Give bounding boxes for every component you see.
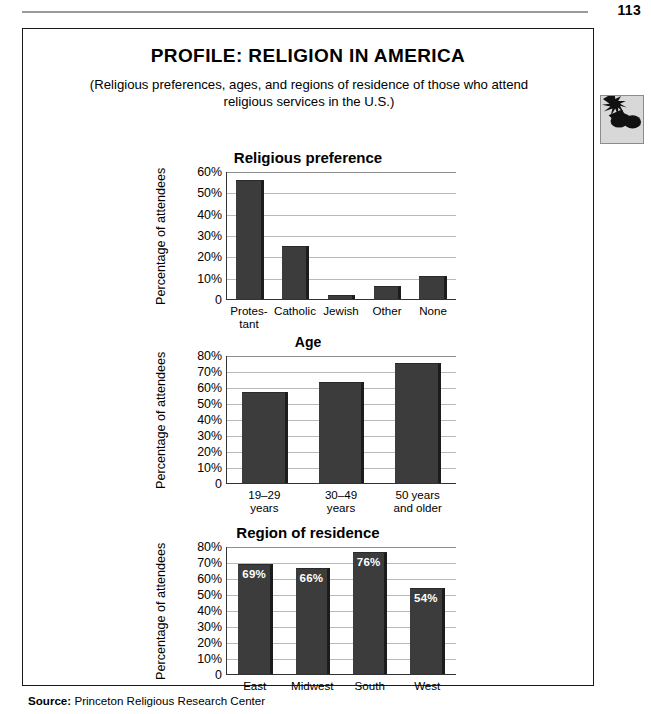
bar: 54% (410, 588, 444, 674)
plot-canvas: 010%20%30%40%50%60% (226, 172, 456, 300)
x-axis-tick-label: East (226, 679, 284, 692)
sunglasses-sun-icon (600, 95, 644, 144)
x-axis-tick-label: Protes- tant (226, 304, 272, 330)
bar-slot: 76% (342, 547, 399, 674)
x-axis-tick-label: Midwest (284, 679, 342, 692)
x-axis-labels: EastMidwestSouthWest (226, 679, 456, 692)
y-axis-tick: 30% (197, 621, 227, 633)
chart-region-of-residence: Region of residencePercentage of attende… (23, 524, 593, 709)
chart-title: Religious preference (23, 149, 593, 166)
page-title: PROFILE: RELIGION IN AMERICA (23, 45, 593, 67)
source-line: Source: Princeton Religious Research Cen… (28, 694, 265, 707)
bar-value-label: 69% (238, 568, 269, 580)
bar-value-label: 66% (296, 572, 327, 584)
bar-value-label: 76% (353, 556, 384, 568)
bar (395, 363, 441, 483)
bar-series (227, 172, 456, 299)
x-axis-tick-label: None (410, 304, 456, 330)
bar-slot (273, 172, 319, 299)
bar-slot: 54% (399, 547, 456, 674)
page-frame: PROFILE: RELIGION IN AMERICA (Religious … (22, 28, 594, 686)
y-axis-label: Percentage of attendees (154, 172, 170, 300)
chart-title: Region of residence (23, 524, 593, 541)
bar-slot: 69% (227, 547, 284, 674)
y-axis-tick: 70% (197, 366, 227, 378)
x-axis-tick-label: Catholic (272, 304, 318, 330)
x-axis-tick-label: 50 years and older (379, 488, 456, 514)
bar-slot (364, 172, 410, 299)
y-axis-tick: 80% (197, 350, 227, 362)
x-axis-tick-label: 19–29 years (226, 488, 303, 514)
source-text: Princeton Religious Research Center (74, 694, 265, 707)
bar (242, 392, 288, 483)
bar-value-label: 54% (410, 592, 441, 604)
plot-area: Percentage of attendees010%20%30%40%50%6… (158, 356, 458, 518)
y-axis-tick: 20% (197, 637, 227, 649)
x-axis-tick-label: Jewish (318, 304, 364, 330)
page-subtitle: (Religious preferences, ages, and region… (85, 77, 533, 110)
y-axis-tick: 20% (197, 251, 227, 263)
y-axis-tick: 80% (197, 541, 227, 553)
y-axis-tick: 50% (197, 187, 227, 199)
x-axis-tick-label: Other (364, 304, 410, 330)
y-axis-tick: 10% (197, 272, 227, 284)
x-axis-labels: 19–29 years30–49 years50 years and older (226, 488, 456, 514)
bar (282, 246, 309, 299)
plot-canvas: 010%20%30%40%50%60%70%80% (226, 356, 456, 484)
y-axis-tick: 20% (197, 446, 227, 458)
bar-slot (380, 356, 456, 483)
plot-area: Percentage of attendees010%20%30%40%50%6… (158, 547, 458, 709)
y-axis-tick: 50% (197, 398, 227, 410)
chart-age: AgePercentage of attendees010%20%30%40%5… (23, 334, 593, 518)
page-number: 113 (618, 2, 642, 18)
bar-slot (319, 172, 365, 299)
y-axis-tick: 60% (197, 573, 227, 585)
bar: 76% (353, 552, 387, 674)
y-axis-label: Percentage of attendees (154, 547, 170, 675)
bar: 69% (238, 564, 272, 674)
x-axis-tick-label: West (399, 679, 457, 692)
y-axis-tick: 40% (197, 208, 227, 220)
source-label: Source: (28, 694, 71, 707)
bar (374, 286, 401, 299)
bar-slot (410, 172, 456, 299)
x-axis-tick-label: 30–49 years (303, 488, 380, 514)
header-rule (22, 11, 588, 13)
bar-slot: 66% (284, 547, 341, 674)
bar (319, 382, 365, 483)
y-axis-tick: 30% (197, 230, 227, 242)
y-axis-tick: 30% (197, 430, 227, 442)
bar-slot (227, 356, 303, 483)
plot-canvas: 010%20%30%40%50%60%70%80%69%66%76%54% (226, 547, 456, 675)
bar (328, 295, 355, 299)
y-axis-tick: 10% (197, 653, 227, 665)
bar: 66% (296, 568, 330, 674)
chart-title: Age (23, 334, 593, 350)
y-axis-tick: 60% (197, 382, 227, 394)
bar-series (227, 356, 456, 483)
y-axis-tick: 40% (197, 605, 227, 617)
x-axis-labels: Protes- tantCatholicJewishOtherNone (226, 304, 456, 330)
bar-slot (303, 356, 379, 483)
bar (419, 276, 446, 299)
bar (236, 180, 263, 299)
plot-area: Percentage of attendees010%20%30%40%50%6… (158, 172, 458, 334)
bar-slot (227, 172, 273, 299)
chart-religious-preference: Religious preferencePercentage of attend… (23, 149, 593, 334)
y-axis-tick: 40% (197, 414, 227, 426)
bar-series: 69%66%76%54% (227, 547, 456, 674)
y-axis-tick: 60% (197, 166, 227, 178)
y-axis-tick: 70% (197, 557, 227, 569)
y-axis-label: Percentage of attendees (154, 356, 170, 484)
y-axis-tick: 50% (197, 589, 227, 601)
y-axis-tick: 10% (197, 462, 227, 474)
x-axis-tick-label: South (341, 679, 399, 692)
